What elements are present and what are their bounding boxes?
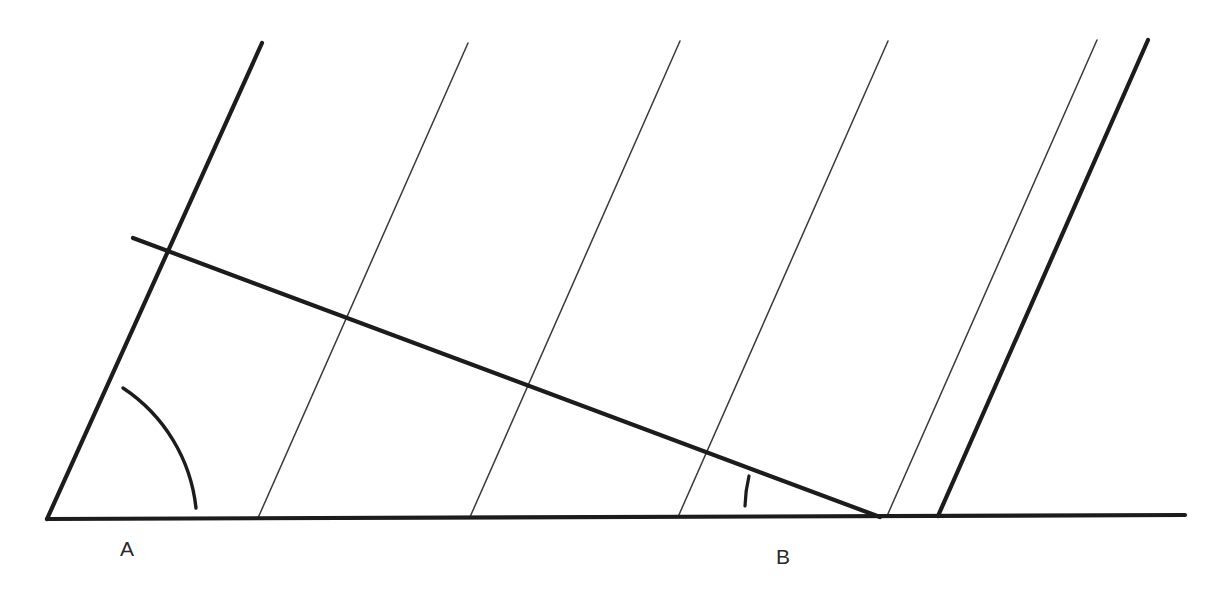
vertex-label-a: A: [120, 537, 134, 560]
geometry-canvas: A B: [0, 0, 1222, 609]
vertex-label-b: B: [776, 545, 790, 568]
diagram-root: A B: [0, 0, 1222, 609]
